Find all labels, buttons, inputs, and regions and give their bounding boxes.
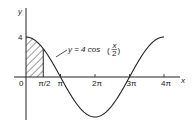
y-tick-label: 4	[18, 33, 23, 42]
x-tick-label: 2π	[92, 79, 102, 88]
x-axis-label: x	[180, 76, 186, 85]
svg-text:2: 2	[112, 49, 117, 58]
x-tick-label: π/2	[38, 79, 51, 88]
annotation-leader	[56, 50, 67, 57]
svg-text:): )	[118, 46, 121, 55]
svg-text:(: (	[107, 46, 110, 55]
y-ticks: 4	[18, 33, 23, 42]
function-annotation: y = 4 cos ( x 2 )	[67, 41, 121, 58]
y-axis-label: y	[17, 7, 23, 16]
x-tick-label: 4π	[161, 79, 171, 88]
shaded-region	[26, 37, 43, 77]
chart-plot: y x 0π/2π2π3π4π 4 y = 4 cos ( x 2 )	[0, 0, 192, 130]
x-tick-label: 0	[19, 79, 24, 88]
svg-text:y = 4 cos: y = 4 cos	[67, 45, 100, 54]
